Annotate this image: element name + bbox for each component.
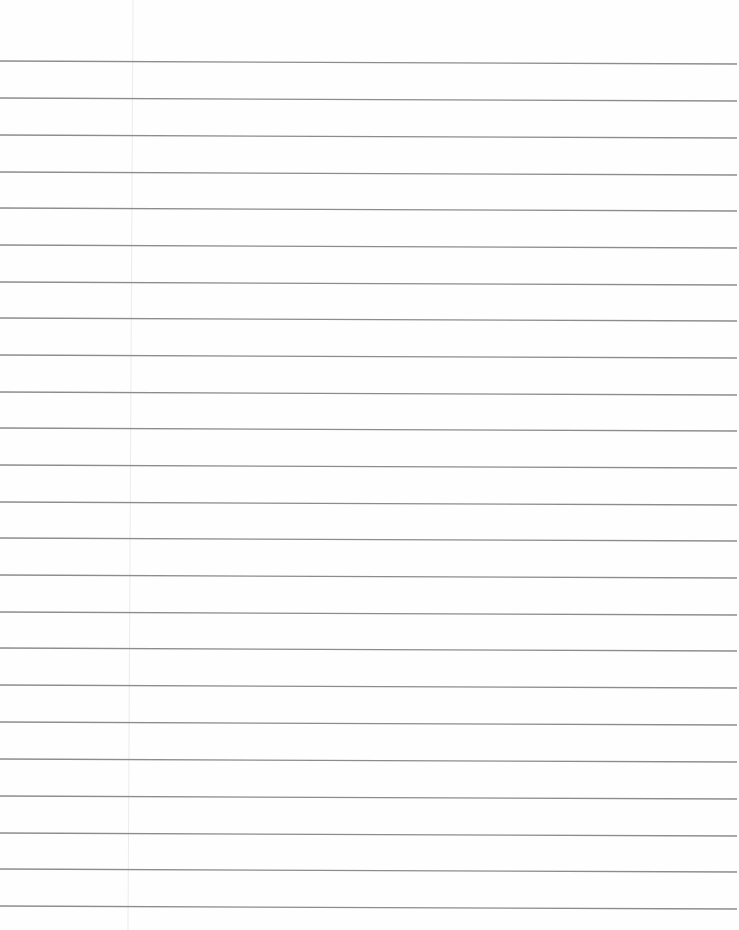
- ruled-line-9: [0, 355, 737, 358]
- ruled-line-6: [0, 245, 737, 248]
- ruled-line-19: [0, 722, 737, 725]
- ruled-line-22: [0, 833, 737, 836]
- ruled-line-17: [0, 648, 737, 651]
- ruled-line-16: [0, 612, 737, 615]
- ruled-line-2: [0, 98, 737, 101]
- ruled-line-23: [0, 869, 737, 872]
- ruled-line-12: [0, 465, 737, 468]
- ruled-line-15: [0, 575, 737, 578]
- ruled-line-7: [0, 282, 737, 285]
- ruled-line-3: [0, 135, 737, 138]
- ruled-line-14: [0, 538, 737, 541]
- ruled-line-13: [0, 502, 737, 505]
- ruled-line-21: [0, 796, 737, 799]
- ruled-line-18: [0, 685, 737, 688]
- ruled-line-20: [0, 759, 737, 762]
- ruled-line-11: [0, 428, 737, 431]
- ruled-line-4: [0, 172, 737, 175]
- ruled-lines-canvas: [0, 0, 739, 930]
- notebook-page: [0, 0, 739, 930]
- ruled-line-8: [0, 318, 737, 321]
- ruled-line-24: [0, 906, 737, 909]
- ruled-line-1: [0, 61, 737, 64]
- ruled-line-10: [0, 392, 737, 395]
- ruled-lines: [0, 61, 737, 909]
- ruled-line-5: [0, 208, 737, 211]
